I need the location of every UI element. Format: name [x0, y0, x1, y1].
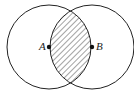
point-b-label: B — [96, 41, 103, 52]
point-a-dot — [47, 45, 51, 49]
venn-diagram — [0, 0, 134, 103]
point-a-label: A — [39, 41, 46, 52]
point-b-dot — [90, 45, 94, 49]
